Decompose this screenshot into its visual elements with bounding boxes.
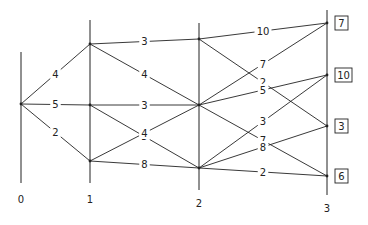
edge-weight-label: 2 xyxy=(52,127,58,138)
edge-weight-label: 3 xyxy=(141,100,147,111)
terminal-value: 10 xyxy=(337,70,350,81)
edges xyxy=(21,23,327,176)
edge-weight-label: 3 xyxy=(141,36,147,47)
node-s3d xyxy=(326,175,329,178)
terminal-values: 71036 xyxy=(335,16,352,183)
node-s0 xyxy=(20,103,23,106)
stage-label: 2 xyxy=(196,198,202,209)
terminal-value: 3 xyxy=(338,121,344,132)
node-s2b xyxy=(198,104,201,107)
edge-weight-label: 2 xyxy=(260,167,266,178)
stage-label: 1 xyxy=(87,194,93,205)
edge-weight-label: 5 xyxy=(52,99,58,110)
edge-weight-label: 4 xyxy=(141,69,147,80)
stage-label: 0 xyxy=(18,194,24,205)
edge-weight-label: 3 xyxy=(260,116,266,127)
node-s1b xyxy=(89,104,92,107)
node-s3a xyxy=(326,22,329,25)
node-s3b xyxy=(326,74,329,77)
edge-weight-label: 4 xyxy=(52,69,58,80)
edge-weight-label: 8 xyxy=(260,142,266,153)
node-s3c xyxy=(326,125,329,128)
edge-weight-label: 5 xyxy=(260,85,266,96)
terminal-value: 6 xyxy=(338,171,344,182)
edge-weight-label: 8 xyxy=(141,159,147,170)
edge-weight-label: 10 xyxy=(257,26,270,37)
edge-weight-label: 4 xyxy=(141,128,147,139)
node-s1a xyxy=(89,43,92,46)
terminal-value: 7 xyxy=(338,18,344,29)
stage-label: 3 xyxy=(324,203,330,214)
edge-weight-label: 7 xyxy=(260,59,266,70)
node-s2a xyxy=(198,38,201,41)
stage-labels: 0123 xyxy=(18,194,330,214)
node-s2c xyxy=(198,167,201,170)
stage-lines xyxy=(21,10,327,195)
multistage-network-diagram: 452343548102757382 0123 71036 xyxy=(0,0,368,225)
node-s1c xyxy=(89,160,92,163)
